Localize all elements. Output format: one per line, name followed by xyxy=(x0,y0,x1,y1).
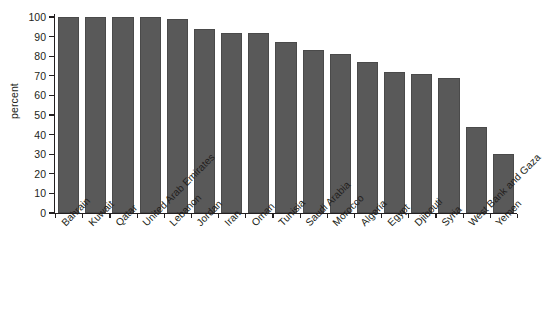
x-axis-tick xyxy=(435,214,436,219)
bar xyxy=(330,54,351,213)
x-axis-tick xyxy=(55,214,56,219)
x-axis-tick xyxy=(109,214,110,219)
x-axis-tick xyxy=(164,214,165,219)
x-axis-tick xyxy=(408,214,409,219)
y-axis-tick xyxy=(49,75,54,76)
x-axis-tick xyxy=(82,214,83,219)
x-axis-tick xyxy=(191,214,192,219)
bar xyxy=(275,42,296,213)
x-axis-tick xyxy=(490,214,491,219)
y-axis-tick xyxy=(49,173,54,174)
x-axis-tick xyxy=(218,214,219,219)
y-axis-tick-label: 20 xyxy=(2,169,46,180)
y-axis-tick xyxy=(49,36,54,37)
y-axis-tick-label: 30 xyxy=(2,149,46,160)
x-axis-tick xyxy=(137,214,138,219)
x-axis-tick xyxy=(381,214,382,219)
plot-area xyxy=(55,17,517,213)
y-axis-tick xyxy=(49,134,54,135)
bar xyxy=(221,33,242,213)
bar xyxy=(167,19,188,213)
y-axis-tick-label: 100 xyxy=(2,12,46,23)
y-axis-tick-labels: 1009080706050403020100 xyxy=(0,0,46,319)
y-axis-tick xyxy=(49,114,54,115)
x-axis-tick xyxy=(245,214,246,219)
x-axis-tick xyxy=(327,214,328,219)
bar xyxy=(493,154,514,213)
bar xyxy=(58,17,79,213)
x-axis-tick xyxy=(272,214,273,219)
y-axis-tick xyxy=(49,212,54,213)
y-axis-tick-label: 40 xyxy=(2,129,46,140)
bar xyxy=(194,29,215,213)
y-axis-tick-label: 60 xyxy=(2,90,46,101)
x-axis-tick xyxy=(300,214,301,219)
bar xyxy=(85,17,106,213)
y-axis-tick-label: 50 xyxy=(2,110,46,121)
y-axis-tick xyxy=(49,154,54,155)
y-axis-tick xyxy=(49,193,54,194)
y-axis-tick-label: 10 xyxy=(2,188,46,199)
y-axis-tick xyxy=(49,16,54,17)
y-axis-tick-label: 0 xyxy=(2,208,46,219)
y-axis-tick-label: 70 xyxy=(2,71,46,82)
x-axis-tick xyxy=(517,214,518,219)
y-axis-tick-label: 80 xyxy=(2,51,46,62)
x-axis-tick xyxy=(354,214,355,219)
y-axis-tick xyxy=(49,95,54,96)
bar xyxy=(112,17,133,213)
y-axis-tick-label: 90 xyxy=(2,31,46,42)
bar xyxy=(140,17,161,213)
bar xyxy=(438,78,459,213)
bar xyxy=(303,50,324,213)
bar xyxy=(357,62,378,213)
bar xyxy=(384,72,405,213)
bar xyxy=(466,127,487,213)
y-axis-tick xyxy=(49,56,54,57)
x-axis-tick xyxy=(463,214,464,219)
bar xyxy=(411,74,432,213)
bar xyxy=(248,33,269,213)
